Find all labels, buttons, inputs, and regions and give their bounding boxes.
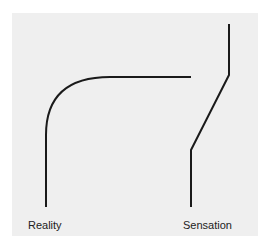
reality-curve (46, 77, 191, 207)
reality-label: Reality (28, 219, 62, 232)
sensation-line (191, 24, 229, 207)
diagram-lines (0, 0, 261, 244)
sensation-label: Sensation (183, 219, 232, 232)
